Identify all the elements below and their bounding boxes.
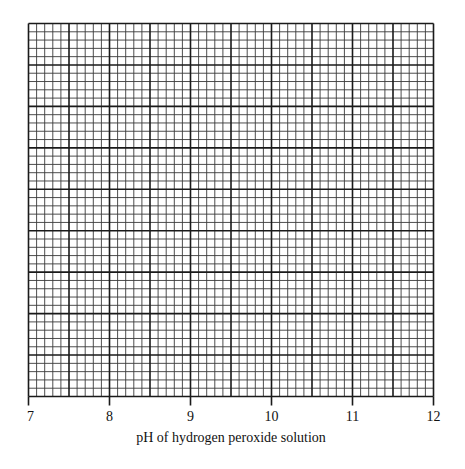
x-tick-label: 12 [427, 409, 441, 424]
major-grid [29, 24, 434, 397]
x-axis-title: pH of hydrogen peroxide solution [136, 430, 326, 445]
x-axis-tick-labels: 789101112 [27, 409, 441, 424]
x-tick-label: 8 [106, 409, 113, 424]
x-tick-label: 10 [265, 409, 279, 424]
x-axis-ticks [29, 397, 434, 406]
x-tick-label: 11 [346, 409, 359, 424]
graph-paper-chart: 789101112 pH of hydrogen peroxide soluti… [0, 0, 465, 469]
x-tick-label: 9 [187, 409, 194, 424]
x-tick-label: 7 [27, 409, 34, 424]
